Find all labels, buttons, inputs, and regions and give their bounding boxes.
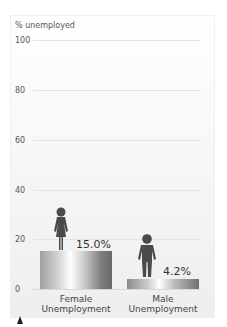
male-value-label: 4.2% xyxy=(163,265,191,278)
up-arrow-icon xyxy=(17,316,23,324)
category-female-line2: Unemployment xyxy=(36,304,116,314)
female-value-label: 15.0% xyxy=(76,238,111,251)
category-male-line2: Unemployment xyxy=(123,304,203,314)
y-tick-40: 40 xyxy=(15,186,25,195)
male-figure-icon xyxy=(137,234,157,278)
bar-female-unemployment xyxy=(40,251,112,289)
category-male-line1: Male xyxy=(123,294,203,304)
category-female-line1: Female xyxy=(36,294,116,304)
y-tick-100: 100 xyxy=(15,36,30,45)
y-tick-80: 80 xyxy=(15,86,25,95)
gridline-60 xyxy=(33,140,201,141)
bar-male-unemployment xyxy=(127,279,199,289)
y-tick-0: 0 xyxy=(15,285,20,294)
baseline xyxy=(33,289,201,290)
category-female: Female Unemployment xyxy=(36,294,116,314)
y-tick-60: 60 xyxy=(15,136,25,145)
y-tick-20: 20 xyxy=(15,235,25,244)
female-figure-icon xyxy=(52,207,70,251)
gridline-100 xyxy=(33,40,201,41)
gridline-80 xyxy=(33,90,201,91)
category-male: Male Unemployment xyxy=(123,294,203,314)
y-axis-label: % unemployed xyxy=(15,21,75,30)
gridline-40 xyxy=(33,190,201,191)
